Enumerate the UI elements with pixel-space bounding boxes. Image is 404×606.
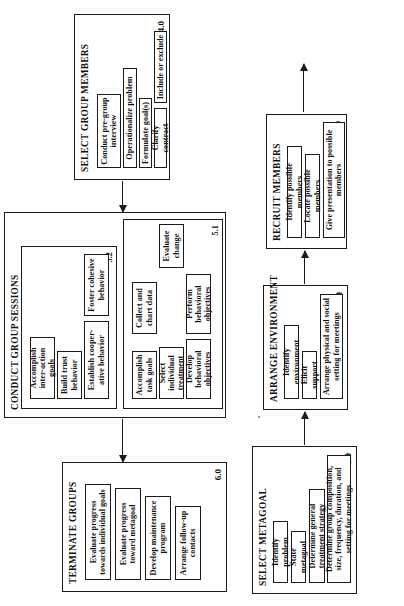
step-item[interactable]: Include or exclude (154, 31, 167, 103)
step-item[interactable]: Determine group composition, size, frequ… (327, 455, 351, 583)
scan-speck (258, 416, 260, 418)
step-item[interactable]: Develop maintenance program (145, 496, 171, 580)
box-title: TERMINATE GROUPS (68, 481, 78, 584)
step-item[interactable]: Identify environment (284, 325, 299, 399)
flowchart-canvas: SELECT METAGOAL 1.0 Identify problem Sta… (0, 0, 404, 606)
step-item[interactable]: Develop behavioral objectives (186, 339, 211, 399)
process-box-conduct-group-sessions[interactable]: CONDUCT GROUP SESSIONS 5.0 5.2 Accomplis… (4, 212, 226, 418)
step-item[interactable]: Determine general treatment strategy (309, 489, 325, 583)
box-title: ARRANGE ENVIRONMENT (269, 275, 279, 402)
connector-arrow-3-to-4 (303, 64, 304, 112)
process-box-select-metagoal[interactable]: SELECT METAGOAL 1.0 Identify problem Sta… (252, 446, 357, 594)
step-item[interactable]: Accomplish inter-action goals (30, 337, 55, 399)
connector-arrow-5-to-6 (122, 419, 123, 462)
step-item[interactable]: Identify problem (273, 521, 288, 583)
step-item[interactable]: Accomplish task goals (132, 351, 157, 399)
process-box-arrange-environment[interactable]: ARRANGE ENVIRONMENT 2.0 Identify environ… (263, 285, 348, 410)
connector-arrow-4-to-5 (122, 181, 123, 212)
step-item[interactable]: Clarify contract (154, 108, 167, 168)
subgroup-5-2[interactable]: 5.2 Accomplish inter-action goals Build … (21, 246, 117, 409)
step-item[interactable]: State metagoal (291, 531, 306, 583)
step-item[interactable]: Foster cohesive behavior (84, 254, 109, 316)
process-box-select-group-members[interactable]: SELECT GROUP MEMBERS 4.0 Conduct pre-gro… (74, 14, 170, 180)
connector-arrow-2-to-3 (304, 251, 305, 284)
box-number: 6.0 (213, 469, 223, 480)
step-item[interactable]: Evaluate progress toward metagoal (115, 488, 141, 580)
step-item[interactable]: Select individual treatment (159, 347, 184, 399)
process-box-recruit-members[interactable]: RECRUIT MEMBERS 3.0 Identify possible me… (266, 114, 347, 249)
step-item[interactable]: Arrange follow-up contacts (175, 506, 201, 580)
step-item[interactable]: Evaluate change (159, 224, 184, 268)
step-item[interactable]: Evaluate progress towards individual goa… (85, 484, 111, 580)
subgroup-number: 5.1 (211, 225, 220, 235)
step-item[interactable]: Perform behavioral objectives (186, 274, 211, 334)
step-item[interactable]: Collect and chart data (132, 282, 157, 334)
subgroup-5-1[interactable]: 5.1 Accomplish task goals Select individ… (123, 219, 223, 409)
step-item[interactable]: Operationalize problem (123, 68, 137, 168)
step-item[interactable]: Arrange physical and social setting for … (320, 294, 343, 399)
process-box-terminate-groups[interactable]: TERMINATE GROUPS 6.0 Evaluate progress t… (62, 462, 227, 592)
step-item[interactable]: Build trust behavior (57, 351, 82, 399)
diagram-page: SELECT METAGOAL 1.0 Identify problem Sta… (0, 0, 404, 606)
step-item[interactable]: Give presentation to possible members (323, 122, 345, 238)
step-item[interactable]: Conduct pre-group interview (97, 94, 121, 168)
step-item[interactable]: Elicit support (302, 351, 317, 399)
box-title: CONDUCT GROUP SESSIONS (10, 274, 20, 410)
step-item[interactable]: Formulate goal(s) (139, 98, 152, 168)
box-title: SELECT METAGOAL (258, 488, 268, 586)
step-item[interactable]: Locate possible members (305, 154, 320, 238)
step-item[interactable]: Establish cooper-ative behavior (84, 321, 109, 399)
connector-arrow-1-to-2 (304, 412, 305, 445)
step-item[interactable]: Identify possible members (287, 146, 302, 238)
box-title: RECRUIT MEMBERS (272, 143, 282, 241)
box-title: SELECT GROUP MEMBERS (80, 44, 90, 172)
